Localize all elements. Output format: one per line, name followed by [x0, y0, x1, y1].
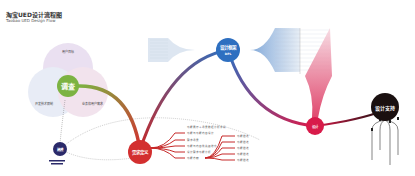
- define-branch-item: 功能与内容优先级排序: [187, 144, 217, 148]
- venn-top-label: 用户目标: [62, 50, 74, 54]
- support-branches: [372, 120, 398, 165]
- define-sub-item: 功能描述: [237, 134, 249, 138]
- framework-node-sub: DPL: [225, 52, 232, 56]
- venn-right-label: 业务和用户需求: [82, 102, 103, 106]
- framework-left-fan: [148, 38, 222, 62]
- framework-node-label: 设计框架: [220, 44, 236, 50]
- define-branch-item: 功能与功能内容设计: [187, 131, 214, 135]
- define-branch-item: 设计需求功能分析: [187, 150, 211, 154]
- define-node-label: 需求定义: [132, 149, 148, 155]
- define-branch-header: 功能展示＋场景数据分析字段: [187, 125, 226, 129]
- define-branch-item: 功能方案: [187, 156, 199, 160]
- design-node-label: 设计: [312, 124, 318, 129]
- define-sub-item: 功能描述: [237, 140, 249, 144]
- model-node-label: 建模: [57, 147, 63, 152]
- define-sub-item: 功能描述: [237, 146, 249, 150]
- research-node-label: 调查: [61, 81, 75, 91]
- define-sub-item: 功能描述: [237, 158, 249, 162]
- define-branch-item: 需求场景: [187, 138, 199, 142]
- framework-node: [216, 38, 240, 62]
- design-fan: [305, 28, 332, 118]
- support-node-label: 设计支持: [375, 104, 395, 111]
- venn-left-label: 开发技术限制: [35, 102, 53, 106]
- define-sub-item: 功能描述: [237, 152, 249, 156]
